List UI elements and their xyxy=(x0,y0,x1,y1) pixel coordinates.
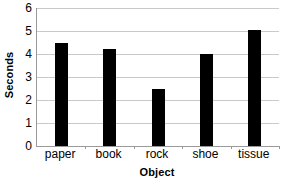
bars xyxy=(37,8,279,146)
bar xyxy=(55,43,68,147)
y-axis-tick-label: 5 xyxy=(25,25,32,37)
y-axis-tick-labels: 0123456 xyxy=(18,8,32,146)
y-axis-tick-label: 4 xyxy=(25,48,32,60)
x-axis-tick-labels: paperbookrockshoetissue xyxy=(36,148,278,166)
x-axis-tick-label: book xyxy=(96,148,122,161)
bar xyxy=(103,49,116,146)
bar-chart: Seconds 0123456 paperbookrockshoetissue … xyxy=(0,0,301,187)
y-axis-title-label: Seconds xyxy=(3,52,15,99)
y-axis-tick-label: 1 xyxy=(25,117,32,129)
y-axis-tick-label: 0 xyxy=(25,140,32,152)
plot-area xyxy=(36,8,279,147)
x-axis-title: Object xyxy=(36,166,278,178)
bar xyxy=(248,30,261,146)
x-axis-tick-mark xyxy=(279,146,280,149)
x-axis-tick-label: shoe xyxy=(192,148,218,161)
y-axis-title: Seconds xyxy=(0,0,18,150)
x-axis-tick-label: paper xyxy=(45,148,76,161)
y-axis-tick-label: 2 xyxy=(25,94,32,106)
bar xyxy=(152,89,165,147)
x-axis-tick-label: rock xyxy=(146,148,169,161)
bar xyxy=(200,54,213,146)
y-axis-tick-label: 3 xyxy=(25,71,32,83)
y-axis-tick-label: 6 xyxy=(25,2,32,14)
x-axis-tick-label: tissue xyxy=(238,148,269,161)
